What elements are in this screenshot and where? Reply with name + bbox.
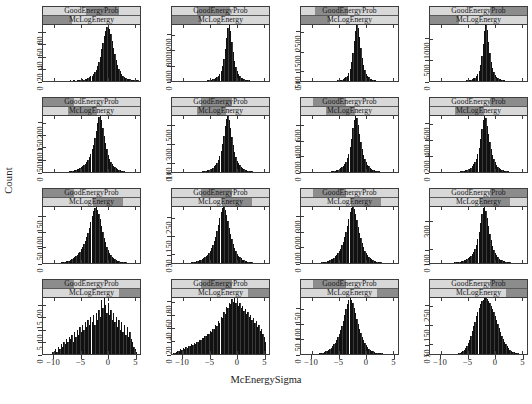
x-axis: −10−505 <box>171 355 270 368</box>
panel-x-tick <box>54 169 55 172</box>
x-axis <box>171 264 270 277</box>
x-tick-label: −5 <box>463 358 472 367</box>
panel-x-tick <box>312 78 313 81</box>
histogram-bars <box>301 116 398 172</box>
panel-x-tick <box>210 351 211 354</box>
panel-cell: 050100150200GoodEnergyProbMcLogEnergy <box>16 97 141 186</box>
panel-cell: 0100200300GoodEnergyProbMcLogEnergy <box>274 188 399 277</box>
strip-band-goodenergyprob: GoodEnergyProb <box>301 280 398 288</box>
panel-y-tick <box>301 232 304 233</box>
panel-x-tick-top <box>210 298 211 301</box>
histogram-panel <box>171 297 270 355</box>
panel-with-strip: GoodEnergyProbMcLogEnergy <box>300 188 399 264</box>
strip-band-highlight <box>377 289 398 297</box>
panel-y-tick <box>43 305 46 306</box>
panel-x-tick-top <box>468 298 469 301</box>
panel-x-tick-top <box>522 298 523 301</box>
x-axis <box>429 173 528 186</box>
strip-band-label: GoodEnergyProb <box>451 7 505 15</box>
panel-with-strip: GoodEnergyProbMcLogEnergy <box>429 188 528 264</box>
panel-x-tick-top <box>183 25 184 28</box>
histogram-bars <box>430 25 527 81</box>
panel-y-tick <box>430 156 433 157</box>
panel-x-tick <box>393 169 394 172</box>
panel-x-tick <box>81 78 82 81</box>
panel-x-tick-top <box>312 298 313 301</box>
panel-x-tick <box>237 78 238 81</box>
panel-strip: GoodEnergyProbMcLogEnergy <box>171 279 270 297</box>
strip-band-label: McLogEnergy <box>198 16 243 24</box>
panel-x-tick <box>441 260 442 263</box>
panel-strip: GoodEnergyProbMcLogEnergy <box>429 97 528 115</box>
strip-band-label: McLogEnergy <box>456 289 501 297</box>
panel-x-tick-top <box>339 207 340 210</box>
panel-with-strip: GoodEnergyProbMcLogEnergy <box>429 279 528 355</box>
panel-with-strip: GoodEnergyProbMcLogEnergy <box>300 97 399 173</box>
panel-x-tick-top <box>441 25 442 28</box>
panel-x-tick <box>183 78 184 81</box>
panel-x-tick <box>393 260 394 263</box>
histogram-panel <box>429 24 528 82</box>
panel-x-tick-top <box>495 298 496 301</box>
strip-band-mclogenergy: McLogEnergy <box>430 197 527 206</box>
histogram-panel <box>300 297 399 355</box>
histogram-panel <box>171 115 270 173</box>
panel-x-tick <box>108 169 109 172</box>
panel-cell: 050150250GoodEnergyProbMcLogEnergy <box>145 188 270 277</box>
panel-y-tick <box>43 216 46 217</box>
panel-y-tick <box>301 32 304 33</box>
strip-band-highlight <box>506 289 527 297</box>
x-axis-title-text: McEnergySigma <box>231 374 302 385</box>
strip-band-mclogenergy: McLogEnergy <box>172 197 269 206</box>
strip-band-label: McLogEnergy <box>456 198 501 206</box>
x-axis <box>429 82 528 95</box>
panel-x-tick <box>135 351 136 354</box>
panel-with-strip: GoodEnergyProbMcLogEnergy <box>171 279 270 355</box>
panel-x-tick-top <box>393 25 394 28</box>
strip-band-mclogenergy: McLogEnergy <box>430 106 527 115</box>
panel-x-tick <box>366 169 367 172</box>
x-axis <box>171 82 270 95</box>
x-axis <box>429 264 528 277</box>
panel-with-strip: GoodEnergyProbMcLogEnergy <box>429 6 528 82</box>
histogram-bars <box>430 298 527 354</box>
panel-strip: GoodEnergyProbMcLogEnergy <box>300 279 399 297</box>
panel-with-strip: GoodEnergyProbMcLogEnergy <box>42 188 141 264</box>
strip-band-label: GoodEnergyProb <box>193 280 247 288</box>
panel-x-tick-top <box>522 25 523 28</box>
panel-strip: GoodEnergyProbMcLogEnergy <box>42 97 141 115</box>
panel-x-tick <box>183 169 184 172</box>
panel-x-tick-top <box>108 207 109 210</box>
panel-x-tick-top <box>393 207 394 210</box>
panel-y-tick <box>172 218 175 219</box>
panel-x-tick <box>108 78 109 81</box>
panel-x-tick-top <box>264 207 265 210</box>
histogram-panel <box>429 115 528 173</box>
panel-x-tick <box>135 78 136 81</box>
panel-y-tick <box>43 232 46 233</box>
strip-band-label: GoodEnergyProb <box>451 98 505 106</box>
y-axis: 05001000 <box>403 6 429 82</box>
panel-x-tick <box>468 351 469 354</box>
panel-x-tick <box>108 351 109 354</box>
panel-strip: GoodEnergyProbMcLogEnergy <box>42 279 141 297</box>
panel-with-strip: GoodEnergyProbMcLogEnergy <box>171 188 270 264</box>
panel-y-tick <box>43 147 46 148</box>
panel-x-tick <box>135 169 136 172</box>
panel-x-tick-top <box>366 116 367 119</box>
histogram-panel <box>171 24 270 82</box>
histogram-bar <box>136 352 137 354</box>
panel-y-tick <box>301 216 304 217</box>
strip-band-label: GoodEnergyProb <box>193 98 247 106</box>
x-axis <box>300 82 399 95</box>
panel-x-tick <box>264 169 265 172</box>
strip-band-mclogenergy: McLogEnergy <box>43 288 140 297</box>
panel-x-tick-top <box>393 298 394 301</box>
strip-band-mclogenergy: McLogEnergy <box>172 15 269 24</box>
strip-band-label: GoodEnergyProb <box>64 280 118 288</box>
strip-band-label: GoodEnergyProb <box>322 280 376 288</box>
panel-y-tick <box>43 123 46 124</box>
panel-x-tick-top <box>210 116 211 119</box>
panel-x-tick <box>441 169 442 172</box>
panel-y-tick <box>301 125 304 126</box>
